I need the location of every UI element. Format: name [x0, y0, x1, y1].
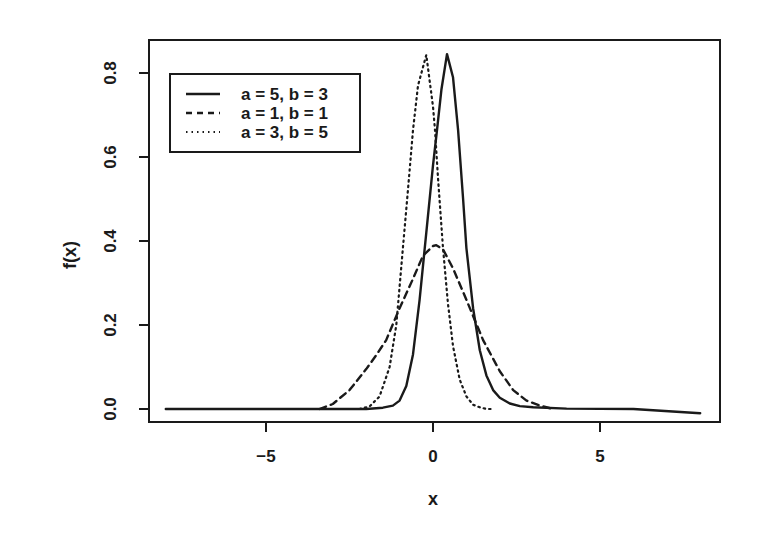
density-chart: −505 0.00.20.40.60.8 x f(x) a = 5, b = 3…: [0, 0, 758, 535]
y-tick-label: 0.0: [101, 397, 120, 421]
x-axis-title: x: [428, 489, 438, 509]
x-axis: −505: [256, 422, 604, 466]
y-tick-label: 0.2: [101, 313, 120, 337]
series-dashed-line: [319, 245, 553, 409]
y-tick-label: 0.4: [101, 229, 120, 253]
legend-label: a = 1, b = 1: [241, 104, 328, 123]
x-tick-label: −5: [256, 447, 275, 466]
y-axis-title: f(x): [60, 241, 80, 269]
y-tick-label: 0.6: [101, 145, 120, 169]
y-axis: 0.00.20.40.60.8: [101, 61, 149, 421]
x-tick-label: 5: [595, 447, 604, 466]
legend: a = 5, b = 3 a = 1, b = 1 a = 3, b = 5: [170, 74, 360, 152]
y-tick-label: 0.8: [101, 61, 120, 85]
x-tick-label: 0: [428, 447, 437, 466]
legend-label: a = 3, b = 5: [241, 123, 328, 142]
legend-label: a = 5, b = 3: [241, 85, 328, 104]
